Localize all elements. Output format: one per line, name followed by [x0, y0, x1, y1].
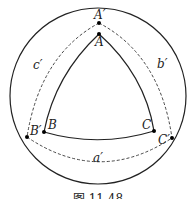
label-b-prime-side: b′: [157, 57, 168, 71]
point-b-prime: [25, 135, 29, 139]
side-b: [99, 34, 154, 131]
label-a-prime: A′: [93, 8, 106, 22]
label-b: B: [47, 118, 57, 132]
point-b: [42, 130, 46, 134]
label-a: A: [94, 35, 104, 49]
label-c-prime-side: c′: [33, 58, 43, 72]
side-a: [44, 131, 154, 140]
spherical-triangle-diagram: A′ A B B′ C C′ a′ b′ c′ 图 11.48: [0, 0, 193, 199]
label-a-prime-side: a′: [93, 151, 103, 165]
label-b-prime: B′: [29, 124, 42, 138]
point-c: [152, 129, 156, 133]
label-c-prime: C′: [158, 133, 170, 147]
polar-side-b-prime: [99, 23, 172, 138]
figure-caption: 图 11.48: [73, 192, 123, 199]
point-c-prime: [170, 136, 174, 140]
label-c: C: [142, 118, 151, 132]
